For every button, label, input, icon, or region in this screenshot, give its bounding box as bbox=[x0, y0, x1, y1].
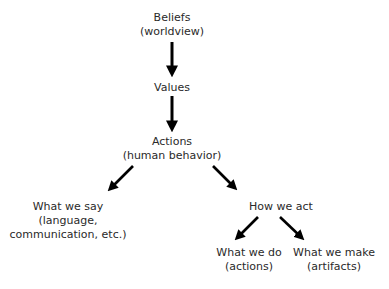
node-what-we-do: What we do (actions) bbox=[216, 246, 281, 274]
node-do-subtitle: (actions) bbox=[216, 260, 281, 274]
node-values-title: Values bbox=[154, 81, 190, 95]
node-actions-subtitle: (human behavior) bbox=[123, 149, 222, 163]
arrow-actions-to-act bbox=[213, 166, 234, 187]
node-act-title: How we act bbox=[249, 200, 313, 214]
node-beliefs-title: Beliefs bbox=[140, 11, 204, 25]
node-beliefs-subtitle: (worldview) bbox=[140, 25, 204, 39]
node-how-we-act: How we act bbox=[249, 200, 313, 214]
arrow-act-to-do bbox=[238, 217, 258, 237]
node-values: Values bbox=[154, 81, 190, 95]
diagram-canvas: Beliefs (worldview) Values Actions (huma… bbox=[0, 0, 389, 289]
arrow-act-to-make bbox=[280, 217, 301, 237]
node-do-title: What we do bbox=[216, 246, 281, 260]
node-make-subtitle: (artifacts) bbox=[293, 260, 375, 274]
node-say-subtitle2: communication, etc.) bbox=[10, 228, 127, 242]
node-make-title: What we make bbox=[293, 246, 375, 260]
node-what-we-say: What we say (language, communication, et… bbox=[10, 200, 127, 242]
arrow-actions-to-say bbox=[111, 166, 133, 188]
node-say-title: What we say bbox=[10, 200, 127, 214]
node-say-subtitle: (language, bbox=[10, 214, 127, 228]
node-beliefs: Beliefs (worldview) bbox=[140, 11, 204, 39]
node-actions-title: Actions bbox=[123, 135, 222, 149]
node-what-we-make: What we make (artifacts) bbox=[293, 246, 375, 274]
node-actions: Actions (human behavior) bbox=[123, 135, 222, 163]
